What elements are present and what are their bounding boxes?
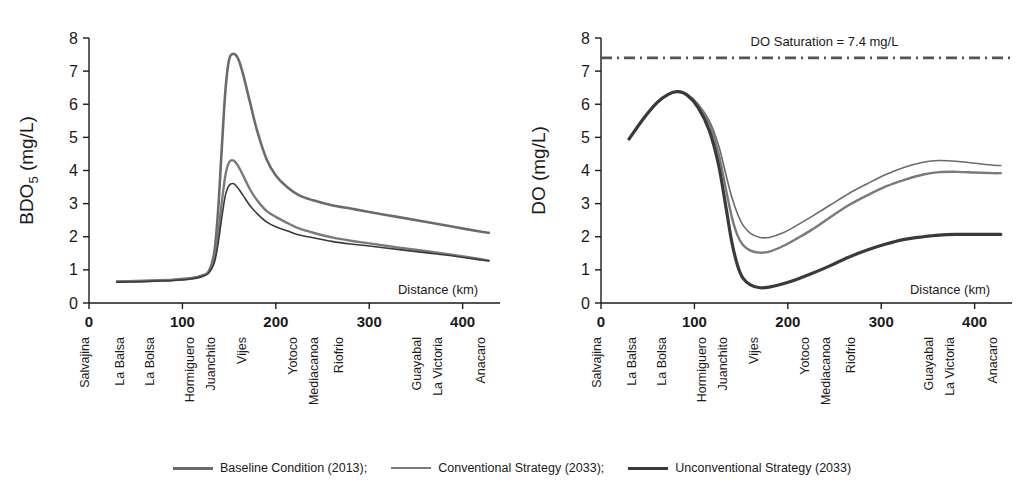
svg-text:7: 7 [581, 63, 590, 80]
svg-text:6: 6 [69, 96, 78, 113]
legend-swatch-conventional-icon [391, 467, 431, 469]
svg-text:Distance (km): Distance (km) [910, 282, 990, 297]
svg-text:Anacaro: Anacaro [474, 337, 488, 384]
svg-text:Juanchito: Juanchito [204, 337, 218, 391]
svg-text:La Bolsa: La Bolsa [655, 337, 669, 386]
legend-label-conventional: Conventional Strategy (2033); [438, 462, 604, 475]
svg-text:0: 0 [69, 295, 78, 312]
svg-text:2: 2 [581, 228, 590, 245]
legend-item-baseline: Baseline Condition (2013); [173, 462, 367, 475]
svg-text:1: 1 [69, 261, 78, 278]
svg-text:Salvajina: Salvajina [78, 337, 92, 388]
svg-text:Hormiguero: Hormiguero [695, 337, 709, 402]
svg-text:Vijes: Vijes [235, 337, 249, 364]
svg-text:Riofrio: Riofrio [332, 337, 346, 373]
legend-swatch-unconventional-icon [628, 467, 668, 470]
svg-text:DO Saturation = 7.4 mg/L: DO Saturation = 7.4 mg/L [751, 34, 899, 49]
svg-text:Hormiguero: Hormiguero [183, 337, 197, 402]
svg-text:La Victoria: La Victoria [943, 337, 957, 396]
svg-text:Juanchito: Juanchito [716, 337, 730, 391]
legend-item-conventional: Conventional Strategy (2033); [391, 462, 604, 475]
svg-text:0: 0 [597, 313, 605, 330]
svg-text:6: 6 [581, 96, 590, 113]
svg-text:Distance (km): Distance (km) [398, 282, 478, 297]
svg-text:4: 4 [69, 162, 78, 179]
legend-label-unconventional: Unconventional Strategy (2033) [675, 462, 851, 475]
svg-text:La Balsa: La Balsa [113, 337, 127, 386]
svg-text:300: 300 [357, 313, 382, 330]
svg-text:DO (mg/L): DO (mg/L) [528, 126, 549, 215]
chart-panel-bod5: 0123456780100200300400SalvajinaLa BalsaL… [0, 0, 512, 440]
legend-label-baseline: Baseline Condition (2013); [220, 462, 367, 475]
svg-text:Anacaro: Anacaro [986, 337, 1000, 384]
svg-text:Yotoco: Yotoco [286, 337, 300, 375]
svg-text:La Victoria: La Victoria [431, 337, 445, 396]
svg-text:La Bolsa: La Bolsa [143, 337, 157, 386]
svg-text:8: 8 [581, 30, 590, 47]
svg-text:8: 8 [69, 30, 78, 47]
svg-text:0: 0 [85, 313, 93, 330]
legend-item-unconventional: Unconventional Strategy (2033) [628, 462, 851, 475]
svg-text:400: 400 [450, 313, 475, 330]
svg-text:100: 100 [170, 313, 195, 330]
svg-text:La Balsa: La Balsa [625, 337, 639, 386]
chart-legend: Baseline Condition (2013); Conventional … [0, 448, 1024, 499]
svg-text:Salvajina: Salvajina [590, 337, 604, 388]
svg-text:300: 300 [869, 313, 894, 330]
svg-text:200: 200 [775, 313, 800, 330]
svg-text:1: 1 [581, 261, 590, 278]
svg-text:5: 5 [69, 129, 78, 146]
svg-text:Riofrio: Riofrio [844, 337, 858, 373]
svg-text:200: 200 [263, 313, 288, 330]
svg-text:2: 2 [69, 228, 78, 245]
svg-text:BDO5 (mg/L): BDO5 (mg/L) [16, 116, 41, 225]
svg-text:Yotoco: Yotoco [798, 337, 812, 375]
svg-text:0: 0 [581, 295, 590, 312]
svg-text:3: 3 [69, 195, 78, 212]
figure-container: 0123456780100200300400SalvajinaLa BalsaL… [0, 0, 1024, 499]
svg-text:Mediacanoa: Mediacanoa [819, 337, 833, 405]
do-plot: 0123456780100200300400SalvajinaLa BalsaL… [512, 0, 1024, 440]
svg-text:Guayabal: Guayabal [922, 337, 936, 391]
svg-text:4: 4 [581, 162, 590, 179]
svg-text:100: 100 [682, 313, 707, 330]
chart-panel-do: 0123456780100200300400SalvajinaLa BalsaL… [512, 0, 1024, 440]
svg-text:Mediacanoa: Mediacanoa [307, 337, 321, 405]
svg-text:400: 400 [962, 313, 987, 330]
svg-text:7: 7 [69, 63, 78, 80]
svg-text:5: 5 [581, 129, 590, 146]
svg-text:3: 3 [581, 195, 590, 212]
legend-swatch-baseline-icon [173, 467, 213, 470]
bod5-plot: 0123456780100200300400SalvajinaLa BalsaL… [0, 0, 512, 440]
svg-text:Guayabal: Guayabal [410, 337, 424, 391]
svg-text:Vijes: Vijes [747, 337, 761, 364]
